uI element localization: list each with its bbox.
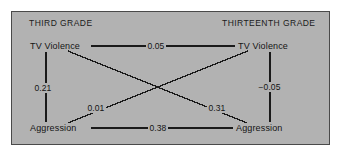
coefficient-cross-lag-031: 0.31	[207, 103, 227, 113]
coefficient-thirteenth-within: −0.05	[257, 82, 282, 92]
node-aggression-third: Aggression	[30, 123, 77, 133]
coefficient-cross-lag-001: 0.01	[86, 103, 106, 113]
node-tv-violence-thirteenth: TV Violence	[238, 41, 288, 51]
group-header-thirteenth-grade: THIRTEENTH GRADE	[222, 18, 315, 28]
group-header-third-grade: THIRD GRADE	[29, 18, 93, 28]
coefficient-agg-to-agg: 0.38	[148, 123, 168, 133]
node-aggression-thirteenth: Aggression	[236, 123, 283, 133]
figure-canvas: THIRD GRADE THIRTEENTH GRADE TV Violence…	[0, 0, 343, 157]
coefficient-tv-to-tv: 0.05	[146, 41, 166, 51]
coefficient-third-within: 0.21	[33, 83, 53, 93]
node-tv-violence-third: TV Violence	[30, 41, 80, 51]
